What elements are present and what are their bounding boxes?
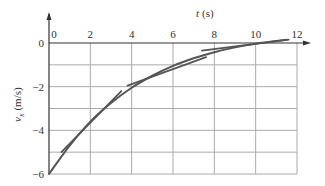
- x-tick-label: 10: [250, 28, 262, 40]
- y-tick-label: 0: [39, 37, 45, 49]
- x-tick-label: 0: [51, 28, 57, 40]
- tangent-line: [128, 57, 207, 85]
- tangent-line: [61, 91, 121, 152]
- x-tick-label: 12: [292, 28, 303, 40]
- x-tick-label: 8: [212, 28, 218, 40]
- velocity-time-chart: 0246810120−2−4−6 t(s) vx(m/s): [0, 0, 325, 186]
- axes: [47, 12, 312, 174]
- tick-labels: 0246810120−2−4−6: [32, 28, 302, 180]
- data-series: [49, 40, 289, 174]
- y-tick-label: −6: [32, 168, 44, 180]
- velocity-curve: [49, 40, 287, 174]
- y-axis-label: vx(m/s): [11, 87, 26, 122]
- x-tick-label: 6: [170, 28, 176, 40]
- x-tick-label: 2: [88, 28, 94, 40]
- y-axis-arrow-icon: [47, 12, 52, 20]
- x-axis-label: t(s): [196, 7, 214, 20]
- grid: [49, 43, 297, 174]
- y-tick-label: −4: [32, 124, 44, 136]
- y-tick-label: −2: [32, 81, 44, 93]
- x-axis-arrow-icon: [303, 41, 311, 46]
- tangent-line: [202, 40, 289, 51]
- x-tick-label: 4: [129, 28, 135, 40]
